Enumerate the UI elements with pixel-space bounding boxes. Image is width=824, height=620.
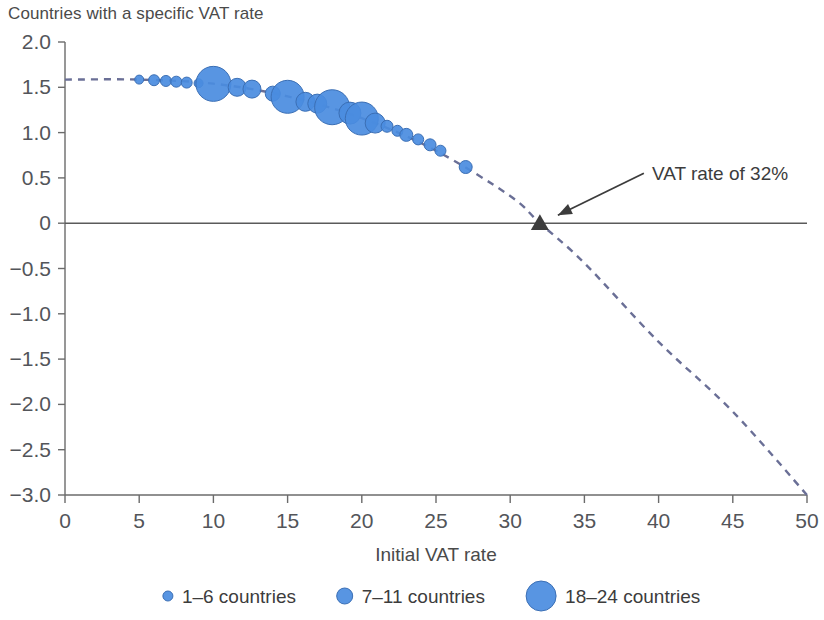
x-axis-label: Initial VAT rate <box>375 544 496 565</box>
x-axis-tick-label: 0 <box>59 509 71 532</box>
legend-label: 7–11 countries <box>362 586 485 607</box>
legend-bubble-icon <box>337 588 353 604</box>
annotation-leader-line <box>558 173 644 215</box>
legend-label: 18–24 countries <box>565 586 700 607</box>
y-axis: 2.01.51.00.50−0.5−1.0−1.5−2.0−2.5−3.0 <box>10 30 65 506</box>
bubble-point <box>413 134 424 145</box>
y-axis-tick-label: −2.0 <box>10 392 51 415</box>
bubble-point <box>459 161 472 174</box>
x-axis-tick-label: 35 <box>573 509 596 532</box>
bubble-point <box>424 139 436 151</box>
chart-legend: 1–6 countries7–11 countries18–24 countri… <box>163 581 700 611</box>
y-axis-tick-label: −2.5 <box>10 438 51 461</box>
bubble-point <box>171 76 182 87</box>
bubble-point <box>435 145 446 156</box>
bubble-point <box>135 75 144 84</box>
bubble-point <box>400 128 413 141</box>
legend-bubble-icon <box>163 591 173 601</box>
chart-container: Countries with a specific VAT rate 2.01.… <box>0 0 824 620</box>
legend-label: 1–6 countries <box>182 586 296 607</box>
x-axis-tick-label: 30 <box>499 509 522 532</box>
chart-plot: 2.01.51.00.50−0.5−1.0−1.5−2.0−2.5−3.0 05… <box>0 0 824 620</box>
x-axis-tick-label: 15 <box>276 509 299 532</box>
y-axis-tick-label: 1.0 <box>22 121 51 144</box>
bubble-point <box>181 77 192 88</box>
legend-bubble-icon <box>526 581 556 611</box>
vat-rate-annotation: VAT rate of 32% <box>558 163 788 215</box>
x-axis-tick-label: 45 <box>721 509 744 532</box>
trend-curve <box>65 79 807 495</box>
x-axis-title: Initial VAT rate <box>375 544 496 565</box>
x-axis-tick-label: 10 <box>202 509 225 532</box>
x-axis: 05101520253035404550 <box>59 495 819 532</box>
y-axis-tick-label: 0 <box>39 211 51 234</box>
bubble-point <box>149 75 160 86</box>
trend-curve-path <box>65 79 807 495</box>
x-axis-tick-label: 20 <box>350 509 373 532</box>
y-axis-tick-label: −1.5 <box>10 347 51 370</box>
annotation-arrowhead <box>558 204 573 215</box>
y-axis-tick-label: −3.0 <box>10 483 51 506</box>
y-axis-tick-label: 2.0 <box>22 30 51 53</box>
bubble-point <box>243 80 261 98</box>
y-axis-tick-label: 0.5 <box>22 166 51 189</box>
bubble-point <box>381 120 393 132</box>
y-axis-tick-label: −1.0 <box>10 302 51 325</box>
x-axis-tick-label: 50 <box>795 509 818 532</box>
annotation-label: VAT rate of 32% <box>652 163 788 184</box>
bubble-point <box>196 66 231 101</box>
x-axis-tick-label: 25 <box>424 509 447 532</box>
x-axis-tick-label: 5 <box>133 509 145 532</box>
y-axis-tick-label: 1.5 <box>22 75 51 98</box>
bubble-series <box>135 66 472 173</box>
bubble-point <box>160 75 171 86</box>
x-axis-tick-label: 40 <box>647 509 670 532</box>
y-axis-tick-label: −0.5 <box>10 257 51 280</box>
